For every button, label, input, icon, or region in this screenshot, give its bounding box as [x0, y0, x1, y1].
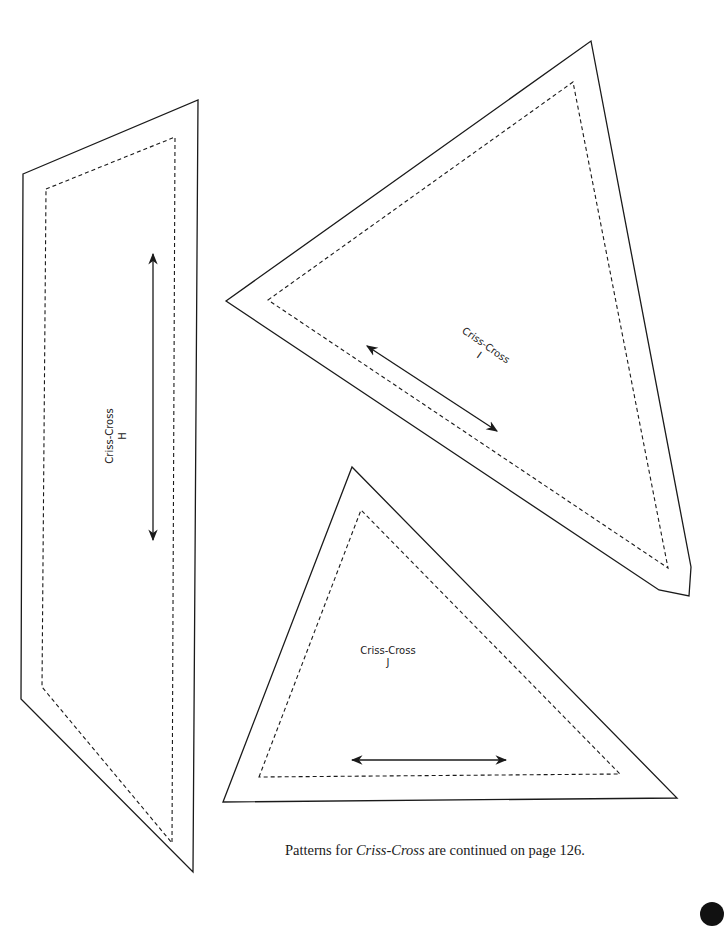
note-suffix: are continued on page 126.	[425, 842, 585, 858]
pattern-piece-j: Criss-Cross J	[223, 467, 677, 802]
piece-label-letter: J	[386, 657, 390, 668]
seam-line	[259, 510, 620, 777]
page-tab-marker	[700, 902, 724, 926]
cutting-line	[223, 467, 677, 802]
seam-line	[42, 137, 175, 843]
piece-label-letter: H	[117, 432, 128, 440]
cutting-line	[21, 100, 198, 872]
note-prefix: Patterns for	[285, 842, 356, 858]
piece-label-name: Criss-Cross	[104, 408, 115, 463]
note-title: Criss-Cross	[356, 842, 425, 858]
piece-label-letter: I	[475, 350, 484, 361]
continuation-note: Patterns for Criss-Cross are continued o…	[285, 842, 705, 859]
pattern-piece-i: Criss-Cross I	[226, 41, 691, 596]
piece-label-name: Criss-Cross	[360, 645, 415, 656]
pattern-piece-h: Criss-Cross H	[21, 100, 198, 872]
piece-label-name: Criss-Cross	[460, 325, 512, 366]
